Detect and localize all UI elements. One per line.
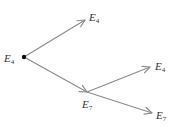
node-label-mid: E7 [81, 98, 93, 112]
tree-diagram: E4 E4 E7 E4 E7 [0, 0, 179, 128]
node-label-root: E4 [3, 52, 15, 66]
edge-mid-to-mid-down [87, 92, 152, 113]
arrowhead-top [77, 20, 85, 27]
node-label-mid-up: E4 [154, 60, 166, 74]
root-node-dot [22, 55, 26, 59]
edge-root-to-top [24, 20, 85, 57]
edge-mid-to-mid-up [87, 67, 150, 92]
edge-root-to-mid [24, 57, 87, 92]
node-label-top: E4 [88, 11, 100, 25]
node-label-mid-down: E7 [155, 109, 167, 123]
